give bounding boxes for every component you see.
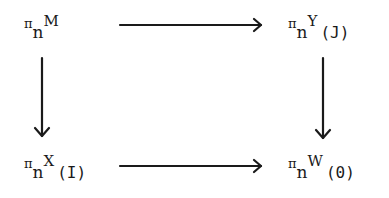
arrow-top-right-icon bbox=[120, 19, 261, 31]
arrows-layer bbox=[0, 0, 389, 198]
arrow-right-down-icon bbox=[316, 58, 330, 138]
arrow-bottom-right-icon bbox=[120, 160, 261, 172]
arrow-left-down-icon bbox=[35, 58, 49, 136]
